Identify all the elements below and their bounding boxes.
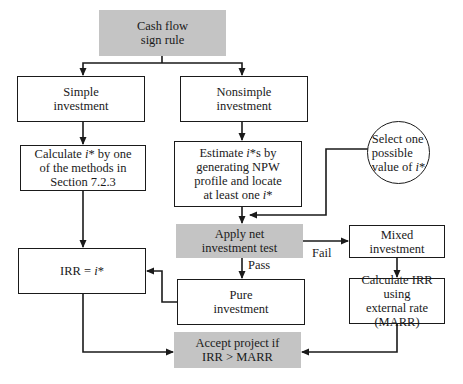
node-text: Section 7.2.3: [35, 175, 132, 189]
node-irr-equals-i-star: IRR = i*: [18, 248, 146, 294]
node-text: investment: [214, 302, 269, 316]
node-text: Accept project if: [196, 336, 280, 350]
node-text: of the methods in: [35, 161, 132, 175]
node-text: generating NPW: [194, 160, 281, 174]
node-text: Select one: [372, 132, 425, 146]
node-text: at least one i*: [194, 188, 281, 202]
node-calculate-irr-external: Calculate IRR using external rate (MARR): [349, 278, 445, 324]
node-text: (MARR): [350, 315, 444, 329]
node-text: Cash flow: [137, 19, 188, 33]
node-text: investment: [370, 242, 425, 256]
node-text: investment test: [202, 241, 277, 255]
edge-pure-irr: [147, 271, 177, 302]
node-text: sign rule: [137, 33, 188, 47]
node-text: Nonsimple: [217, 85, 272, 99]
node-text: Apply net: [202, 227, 277, 241]
edge-to-simple: [83, 63, 162, 75]
node-estimate-i-stars: Estimate i*s by generating NPW profile a…: [174, 141, 302, 207]
node-calculate-i-star: Calculate i* by one of the methods in Se…: [20, 145, 146, 191]
node-text: Estimate i*s by: [194, 146, 281, 160]
node-pure-investment: Pure investment: [177, 279, 305, 325]
node-select-one-value: Select one possible value of i*: [367, 121, 430, 184]
node-text: Simple: [54, 85, 109, 99]
node-apply-net-investment-test: Apply net investment test: [176, 224, 303, 258]
node-text: value of i*: [372, 160, 425, 174]
node-text: investment: [217, 99, 272, 113]
edge-irr-accept: [83, 294, 173, 352]
node-accept-project: Accept project if IRR > MARR: [174, 332, 301, 368]
node-text: Pure: [214, 288, 269, 302]
edge-to-nonsimple: [162, 63, 242, 75]
node-text: profile and locate: [194, 174, 281, 188]
node-text: investment: [54, 99, 109, 113]
edge-label-pass: Pass: [248, 258, 270, 273]
node-text: Calculate i* by one: [35, 147, 132, 161]
edge-label-fail: Fail: [312, 246, 331, 261]
node-text: external rate: [350, 301, 444, 315]
node-text: IRR > MARR: [196, 350, 280, 364]
node-cash-flow-sign-rule: Cash flow sign rule: [99, 10, 226, 56]
node-text: IRR = i*: [60, 264, 104, 278]
node-simple-investment: Simple investment: [17, 76, 145, 122]
node-nonsimple-investment: Nonsimple investment: [180, 76, 308, 122]
node-text: Calculate IRR using: [350, 273, 444, 301]
node-text: possible: [372, 146, 425, 160]
node-mixed-investment: Mixed investment: [349, 225, 445, 258]
node-text: Mixed: [370, 228, 425, 242]
